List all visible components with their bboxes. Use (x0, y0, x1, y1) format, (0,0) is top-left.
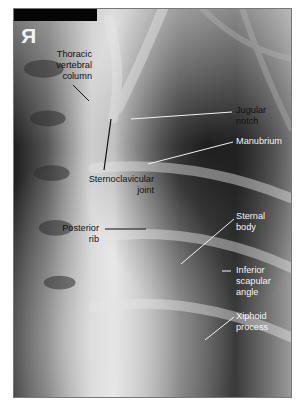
label-sternal-body: Sternal body (236, 211, 265, 233)
label-xiphoid-process: Xiphoid process (236, 311, 268, 333)
label-posterior-rib: Posterior rib (44, 223, 99, 245)
leader-sternal-body (181, 219, 234, 264)
leader-manubrium (148, 142, 233, 164)
label-thoracic-vertebral-column: Thoracic vertebral column (44, 49, 92, 82)
label-inferior-scapular-angle: Inferior scapular angle (236, 265, 271, 298)
label-jugular-notch: Jugular notch (236, 105, 266, 127)
leader-xiphoid-process (205, 317, 234, 340)
leader-jugular-notch (131, 112, 232, 119)
leader-sternoclavicular-joint (104, 119, 111, 170)
leader-thoracic-vertebral-column (73, 85, 89, 101)
radiograph-figure: R Thoracic vertebral column Sternoclavic… (13, 8, 292, 398)
label-sternoclavicular-joint: Sternoclavicular joint (54, 174, 154, 196)
label-manubrium: Manubrium (236, 136, 282, 147)
